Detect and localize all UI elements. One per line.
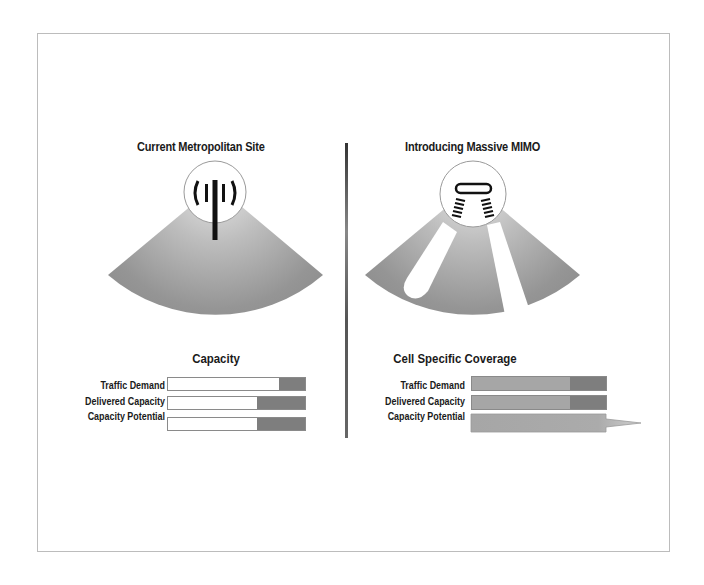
right-bar-label-traffic-demand: Traffic Demand — [401, 379, 465, 391]
left-bar-traffic-demand — [167, 377, 306, 391]
capacity-potential-arrow-bar — [471, 414, 641, 432]
left-bar-label-traffic-demand: Traffic Demand — [101, 379, 165, 391]
panel-divider — [345, 143, 348, 438]
left-bar-delivered-capacity — [167, 396, 306, 410]
left-bar-label-delivered-capacity: Delivered Capacity — [85, 395, 165, 407]
right-bar-label-capacity-potential: Capacity Potential — [388, 410, 465, 422]
left-panel-caption: Capacity — [172, 351, 260, 366]
left-bar-capacity-potential — [167, 417, 306, 431]
right-bar-delivered-capacity — [471, 395, 607, 410]
left-bar-label-capacity-potential: Capacity Potential — [88, 410, 165, 422]
diagram-graphics — [0, 0, 704, 585]
left-panel-title: Current Metropolitan Site — [137, 140, 265, 154]
right-bar-label-delivered-capacity: Delivered Capacity — [385, 395, 465, 407]
massive-mimo-array-icon — [440, 161, 506, 227]
right-bar-traffic-demand — [471, 376, 607, 391]
right-panel-caption: Cell Specific Coverage — [389, 351, 521, 366]
right-panel-title: Introducing Massive MIMO — [405, 140, 540, 154]
